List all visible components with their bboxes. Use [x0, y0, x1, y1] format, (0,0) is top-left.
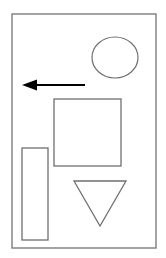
shapes-figure [0, 0, 166, 258]
figure-background [0, 0, 166, 258]
figure-canvas [0, 0, 166, 258]
